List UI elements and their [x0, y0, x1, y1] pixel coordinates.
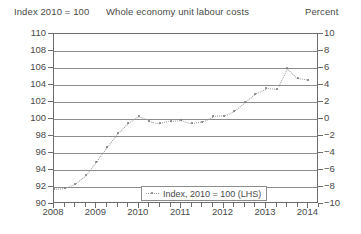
- y-tick-label-right: 6: [324, 62, 354, 72]
- y-tick-label-right: 4: [324, 79, 354, 89]
- data-point: [180, 119, 182, 121]
- y-tick-left: [48, 118, 53, 119]
- series-segment: [234, 102, 246, 112]
- y-tick-label-left: 110: [18, 28, 46, 38]
- y-tick-left: [48, 33, 53, 34]
- y-tick-right: [318, 118, 323, 119]
- data-point: [191, 122, 193, 124]
- data-point: [265, 87, 267, 89]
- series-segment: [118, 123, 130, 135]
- chart-title: Whole economy unit labour costs: [106, 6, 249, 17]
- y-tick-label-left: 100: [18, 113, 46, 123]
- y-tick-left: [48, 84, 53, 85]
- y-tick-label-left: 92: [18, 181, 46, 191]
- series-segment: [224, 110, 235, 117]
- y-tick-label-left: 106: [18, 62, 46, 72]
- data-point: [307, 79, 309, 81]
- y-tick-right: [318, 135, 323, 136]
- data-point: [276, 88, 278, 90]
- data-point: [254, 93, 256, 95]
- data-point: [159, 122, 161, 124]
- y-tick-left: [48, 169, 53, 170]
- x-tick-label: 2013: [245, 206, 285, 217]
- y-tick-label-left: 102: [18, 96, 46, 106]
- y-tick-label-left: 104: [18, 79, 46, 89]
- y-tick-right: [318, 50, 323, 51]
- x-tick-label: 2012: [203, 206, 243, 217]
- data-point: [53, 188, 55, 190]
- y-tick-right: [318, 186, 323, 187]
- y-tick-label-left: 96: [18, 147, 46, 157]
- y-tick-left: [48, 50, 53, 51]
- legend-line-icon: [146, 191, 159, 197]
- y-tick-label-right: 10: [324, 28, 354, 38]
- y-tick-left: [48, 101, 53, 102]
- x-tick-label: 2014: [287, 206, 327, 217]
- data-point: [95, 161, 97, 163]
- data-point: [297, 77, 299, 79]
- y-tick-label-right: −2: [324, 130, 354, 140]
- data-point: [286, 67, 288, 69]
- data-point: [85, 174, 87, 176]
- left-axis-title: Index 2010 = 100: [14, 6, 89, 17]
- y-tick-label-left: 94: [18, 164, 46, 174]
- series-segment: [86, 162, 98, 177]
- data-point: [223, 115, 225, 117]
- data-point: [244, 101, 246, 103]
- chart-figure: Index 2010 = 100 Whole economy unit labo…: [0, 0, 361, 234]
- y-tick-label-right: −6: [324, 164, 354, 174]
- right-axis-title: Percent: [305, 6, 338, 17]
- plot-area: [53, 33, 318, 203]
- y-tick-right: [318, 33, 323, 34]
- data-point: [117, 132, 119, 134]
- data-series-index: [54, 34, 319, 204]
- data-point: [127, 122, 129, 124]
- y-tick-label-left: 98: [18, 130, 46, 140]
- y-tick-right: [318, 152, 323, 153]
- y-tick-left: [48, 152, 53, 153]
- y-tick-right: [318, 67, 323, 68]
- series-segment: [96, 147, 108, 163]
- data-point: [138, 115, 140, 117]
- data-point: [74, 183, 76, 185]
- x-tick-label: 2009: [75, 206, 115, 217]
- y-tick-left: [48, 186, 53, 187]
- data-point: [170, 120, 172, 122]
- x-tick-label: 2008: [33, 206, 73, 217]
- x-tick-label: 2011: [160, 206, 200, 217]
- y-tick-left: [48, 67, 53, 68]
- legend: Index, 2010 = 100 (LHS): [141, 186, 267, 201]
- y-tick-right: [318, 101, 323, 102]
- data-point: [212, 115, 214, 117]
- data-point: [106, 146, 108, 148]
- data-point: [148, 120, 150, 122]
- y-tick-right: [318, 84, 323, 85]
- series-segment: [75, 175, 87, 185]
- x-tick-label: 2010: [118, 206, 158, 217]
- y-tick-label-right: −10: [324, 198, 354, 208]
- y-tick-label-right: 8: [324, 45, 354, 55]
- y-tick-label-right: −8: [324, 181, 354, 191]
- y-tick-label-right: 0: [324, 113, 354, 123]
- data-point: [233, 110, 235, 112]
- legend-label: Index, 2010 = 100 (LHS): [163, 189, 261, 199]
- data-point: [201, 121, 203, 123]
- data-point: [64, 187, 66, 189]
- y-tick-label-right: 2: [324, 96, 354, 106]
- y-tick-left: [48, 135, 53, 136]
- y-tick-label-right: −4: [324, 147, 354, 157]
- y-tick-label-left: 108: [18, 45, 46, 55]
- series-segment: [107, 133, 119, 148]
- y-tick-right: [318, 169, 323, 170]
